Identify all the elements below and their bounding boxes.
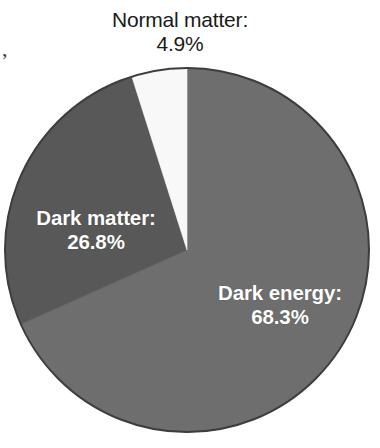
- slice-label-dark-matter: Dark matter: 26.8%: [8, 206, 184, 254]
- slice-label-dark-energy-value: 68.3%: [196, 305, 364, 329]
- slice-label-dark-matter-name: Dark matter:: [8, 206, 184, 230]
- pie-chart-figure: , Normal matter: 4.9% Dark matter: 26.8%…: [0, 0, 380, 448]
- slice-label-normal-matter: Normal matter: 4.9%: [60, 8, 300, 57]
- slice-label-normal-matter-value: 4.9%: [60, 32, 300, 56]
- slice-label-dark-energy-name: Dark energy:: [196, 281, 364, 305]
- slice-label-dark-matter-value: 26.8%: [8, 230, 184, 254]
- slice-label-dark-energy: Dark energy: 68.3%: [196, 281, 364, 329]
- slice-label-normal-matter-name: Normal matter:: [60, 8, 300, 32]
